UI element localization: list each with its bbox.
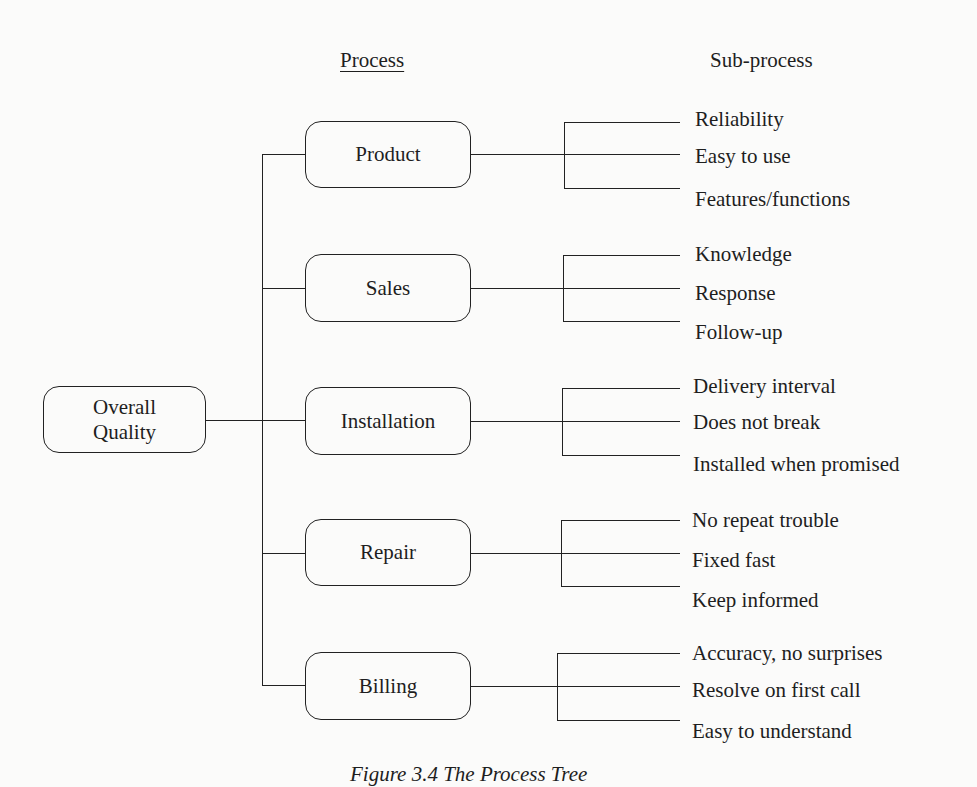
billing-sub-connector [471, 686, 680, 687]
subprocess-item: Fixed fast [692, 548, 775, 572]
billing-sub-line [557, 720, 680, 721]
subprocess-item: Installed when promised [693, 452, 899, 476]
installation-sub-line [562, 455, 680, 456]
subprocess-item: Easy to understand [692, 719, 852, 743]
root-label-line2: Quality [93, 420, 156, 445]
repair-label: Repair [360, 540, 416, 565]
subprocess-item: Knowledge [695, 242, 792, 266]
product-sub-connector [471, 154, 680, 155]
billing-node: Billing [305, 652, 471, 720]
figure-caption: Figure 3.4 The Process Tree [350, 762, 587, 787]
overall-quality-node: Overall Quality [43, 386, 206, 453]
installation-label: Installation [341, 409, 435, 434]
root-connector [206, 420, 305, 421]
repair-sub-line [561, 520, 680, 521]
subprocess-item: Features/functions [695, 187, 850, 211]
installation-node: Installation [305, 387, 471, 455]
product-label: Product [355, 142, 420, 167]
subprocess-item: Easy to use [695, 144, 791, 168]
process-column-header: Process [340, 48, 404, 72]
installation-sub-connector [471, 421, 680, 422]
repair-node: Repair [305, 519, 471, 586]
sales-node: Sales [305, 254, 471, 322]
subprocess-item: Resolve on first call [692, 678, 861, 702]
repair-sub-line [561, 586, 680, 587]
billing-label: Billing [359, 674, 417, 699]
subprocess-item: Response [695, 281, 776, 305]
subprocess-item: Follow-up [695, 320, 783, 344]
billing-connector [262, 685, 305, 686]
subprocess-item: No repeat trouble [692, 508, 839, 532]
subprocess-item: Delivery interval [693, 374, 836, 398]
subprocess-column-header: Sub-process [710, 48, 813, 72]
subprocess-item: Reliability [695, 107, 784, 131]
sales-label: Sales [366, 276, 410, 301]
subprocess-item: Accuracy, no surprises [692, 641, 883, 665]
product-node: Product [305, 121, 471, 188]
root-label-line1: Overall [93, 395, 156, 420]
subprocess-item: Keep informed [692, 588, 819, 612]
product-connector [262, 154, 305, 155]
installation-bracket [562, 388, 563, 455]
sales-bracket [563, 255, 564, 321]
billing-sub-line [557, 653, 680, 654]
repair-connector [262, 553, 305, 554]
product-bracket [564, 122, 565, 188]
repair-sub-connector [471, 553, 680, 554]
repair-bracket [561, 520, 562, 586]
process-spine [262, 154, 263, 686]
product-sub-line [564, 188, 680, 189]
billing-bracket [557, 653, 558, 720]
sales-sub-line [563, 321, 680, 322]
product-sub-line [564, 122, 680, 123]
installation-sub-line [562, 388, 680, 389]
sales-connector [262, 288, 305, 289]
sales-sub-line [563, 255, 680, 256]
subprocess-item: Does not break [693, 410, 820, 434]
sales-sub-connector [471, 288, 680, 289]
